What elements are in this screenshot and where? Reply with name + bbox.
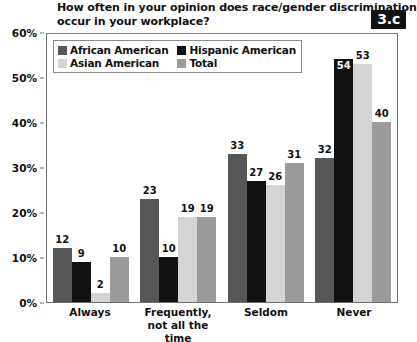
bar-value-label: 2 [97,279,104,291]
bar-slot: 2 [91,34,110,302]
legend: African AmericanHispanic AmericanAsian A… [53,40,302,73]
legend-swatch-icon [177,59,186,68]
plot-area: 129210231019193327263132545340 [46,33,398,303]
legend-item: Total [177,57,296,69]
y-tick-mark [40,168,44,169]
title-line-1: How often in your opinion does race/gend… [57,1,357,15]
bar-value-label: 53 [356,50,370,62]
y-tick-mark [40,213,44,214]
bar-value-label: 23 [143,185,157,197]
bar-slot: 26 [266,34,285,302]
y-tick-label: 0% [19,297,37,309]
bar-value-label: 19 [200,203,214,215]
bar-value-label: 9 [78,248,85,260]
bar-slot: 10 [159,34,178,302]
x-category-label: Seldom [222,306,310,342]
y-tick-mark [40,78,44,79]
legend-item: Asian American [58,57,168,69]
bar[interactable]: 32 [315,158,334,302]
legend-swatch-icon [58,59,67,68]
bar-slot: 33 [228,34,247,302]
x-category-line: Never [310,306,398,319]
x-category-label: Frequently,not all the time [134,306,222,342]
legend-item: Hispanic American [177,44,296,56]
title-line-2: occur in your workplace? [57,15,357,29]
y-tick-mark [40,258,44,259]
x-category-label: Never [310,306,398,342]
y-tick-label: 30% [12,162,37,174]
bar[interactable]: 10 [159,257,178,302]
bar-slot: 31 [285,34,304,302]
bar[interactable]: 2 [91,293,110,302]
bar[interactable]: 19 [178,217,197,303]
figure-badge: 3.c [371,10,406,29]
bar-slot: 53 [353,34,372,302]
bar-slot: 23 [140,34,159,302]
bar-slot: 9 [72,34,91,302]
bar-value-label: 10 [162,243,176,255]
bar-value-label: 12 [55,234,69,246]
legend-item-label: African American [70,44,168,56]
bar-group: 23101919 [135,34,223,302]
bar-value-label: 31 [287,149,301,161]
bar-value-label: 54 [337,60,351,72]
bar-value-label: 26 [268,171,282,183]
page-title: How often in your opinion does race/gend… [57,1,357,28]
bar-value-label: 27 [249,167,263,179]
x-category-line: Seldom [222,306,310,319]
bar-slot: 10 [110,34,129,302]
bar-value-label: 19 [181,203,195,215]
bar-groups: 129210231019193327263132545340 [47,34,397,302]
legend-item-label: Asian American [70,57,159,69]
bar[interactable]: 27 [247,181,266,303]
x-category-line: Always [46,306,134,319]
bar-value-label: 40 [375,108,389,120]
bar-slot: 32 [315,34,334,302]
y-tick-mark [40,123,44,124]
bar-slot: 19 [178,34,197,302]
bar-group: 33272631 [222,34,310,302]
bar-slot: 40 [372,34,391,302]
bar[interactable]: 40 [372,122,391,302]
bar[interactable]: 19 [197,217,216,303]
bar[interactable]: 26 [266,185,285,302]
y-tick-label: 50% [12,72,37,84]
y-tick-mark [40,303,44,304]
legend-swatch-icon [58,46,67,55]
y-axis: 0%10%20%30%40%50%60% [0,33,44,303]
bar[interactable]: 12 [53,248,72,302]
y-tick-label: 40% [12,117,37,129]
legend-swatch-icon [177,46,186,55]
y-tick-label: 10% [12,252,37,264]
bar-slot: 19 [197,34,216,302]
bar-value-label: 10 [112,243,126,255]
bar[interactable]: 53 [353,64,372,303]
bar-slot: 54 [334,34,353,302]
bar-group: 32545340 [310,34,398,302]
bar-slot: 27 [247,34,266,302]
bar[interactable]: 9 [72,262,91,303]
bar-value-label: 33 [230,140,244,152]
legend-item-label: Hispanic American [189,44,296,56]
y-tick-label: 20% [12,207,37,219]
bar[interactable]: 54 [334,59,353,302]
bar[interactable]: 23 [140,199,159,303]
y-tick-label: 60% [12,27,37,39]
y-tick-mark [40,33,44,34]
bar-slot: 12 [53,34,72,302]
bar-group: 129210 [47,34,135,302]
plot-inner: 129210231019193327263132545340 [47,34,397,302]
x-category-line: Frequently, [134,306,222,319]
bar[interactable]: 31 [285,163,304,303]
x-category-label: Always [46,306,134,342]
bar[interactable]: 33 [228,154,247,303]
x-axis: AlwaysFrequently,not all the timeSeldomN… [46,306,398,342]
x-category-line: not all the time [134,319,222,342]
bar-value-label: 32 [318,144,332,156]
legend-item: African American [58,44,168,56]
bar[interactable]: 10 [110,257,129,302]
legend-item-label: Total [189,57,217,69]
